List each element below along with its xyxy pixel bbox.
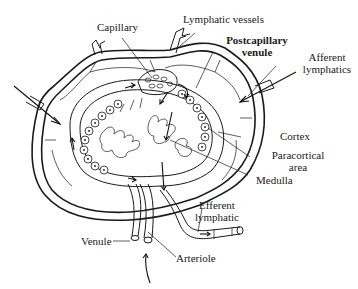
label-medulla: Medulla	[256, 174, 293, 186]
venule-cells	[80, 90, 209, 174]
flow-arrows	[70, 83, 189, 190]
lymph-node-illustration	[0, 0, 358, 289]
label-arteriole: Arteriole	[176, 252, 216, 264]
label-venule: Venule	[81, 235, 112, 247]
label-paracortical-area-line2: area	[262, 161, 334, 173]
label-afferent-lymphatics-line2: lymphatics	[296, 63, 358, 75]
label-postcapillary-venule: Postcapillary venule	[214, 34, 300, 58]
label-capillary: Capillary	[97, 21, 138, 33]
label-afferent-lymphatics-line1: Afferent	[296, 51, 358, 63]
cortex-ring	[70, 80, 224, 187]
label-afferent-lymphatics: Afferent lymphatics	[296, 51, 358, 75]
afferent-vessel-left	[14, 86, 60, 124]
medullary-cords	[100, 98, 192, 158]
label-lymphatic-vessels: Lymphatic vessels	[183, 13, 264, 25]
lymph-node-diagram: Capillary Lymphatic vessels Postcapillar…	[0, 0, 358, 289]
label-paracortical-area: Paracortical area	[262, 149, 334, 173]
label-efferent-lymphatic-line1: Efferent	[187, 199, 247, 211]
afferent-vessel-right	[240, 72, 296, 102]
label-efferent-lymphatic-line2: lymphatic	[187, 211, 247, 223]
label-postcapillary-venule-line1: Postcapillary	[214, 34, 300, 46]
label-efferent-lymphatic: Efferent lymphatic	[187, 199, 247, 223]
label-paracortical-area-line1: Paracortical	[262, 149, 334, 161]
label-cortex: Cortex	[280, 130, 310, 142]
label-postcapillary-venule-line2: venule	[214, 46, 300, 58]
